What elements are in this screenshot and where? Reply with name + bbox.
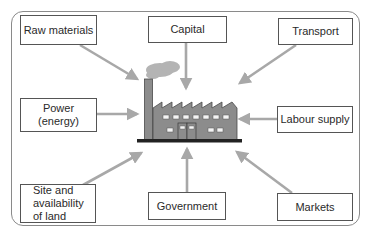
factor-box-site: Site and availability of land bbox=[20, 184, 96, 223]
factor-label: Power (energy) bbox=[38, 102, 79, 128]
factory-icon bbox=[137, 61, 242, 143]
arrow-markets bbox=[237, 152, 292, 193]
factor-label: Government bbox=[157, 200, 218, 213]
factor-box-power: Power (energy) bbox=[20, 98, 97, 132]
factor-box-transport: Transport bbox=[278, 18, 353, 45]
factor-box-government: Government bbox=[148, 192, 226, 220]
smoke-icon bbox=[146, 61, 180, 79]
factor-box-capital: Capital bbox=[148, 16, 227, 43]
factor-label: Transport bbox=[292, 25, 339, 38]
factor-label: Site and availability of land bbox=[33, 184, 84, 223]
arrow-transport bbox=[240, 45, 296, 83]
factor-label: Labour supply bbox=[280, 113, 349, 126]
chimney bbox=[145, 79, 153, 140]
factor-box-labour-supply: Labour supply bbox=[277, 106, 353, 133]
factor-label: Markets bbox=[295, 201, 334, 214]
factor-label: Raw materials bbox=[24, 24, 94, 37]
arrow-site bbox=[83, 153, 141, 185]
arrow-raw-materials bbox=[80, 45, 137, 79]
factor-box-markets: Markets bbox=[277, 193, 353, 221]
ground-line bbox=[137, 139, 242, 143]
factor-label: Capital bbox=[170, 23, 204, 36]
factor-box-raw-materials: Raw materials bbox=[20, 15, 97, 45]
factory-doors bbox=[178, 123, 196, 140]
